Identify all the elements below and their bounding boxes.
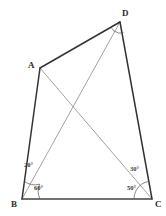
side-ab [22, 68, 40, 199]
vertex-label-b: B [11, 200, 17, 209]
vertex-label-a: A [28, 61, 35, 70]
vertex-label-d: D [122, 9, 129, 18]
angle-label-dbc: 60° [34, 185, 43, 192]
angle-label-bca: 50° [127, 185, 136, 192]
geometry-canvas [0, 0, 166, 216]
angle-label-abd: 20° [24, 162, 33, 169]
diagonal-bd [22, 22, 120, 199]
diagonal-ac [40, 68, 152, 199]
geometry-figure: A B C D 20° 60° 30° 50° [0, 0, 166, 216]
angle-arc-adc [119, 32, 124, 33]
vertex-label-c: C [155, 200, 162, 209]
angle-arc-bca [134, 190, 136, 199]
angle-label-acd: 30° [130, 166, 139, 173]
side-ad [40, 22, 120, 68]
